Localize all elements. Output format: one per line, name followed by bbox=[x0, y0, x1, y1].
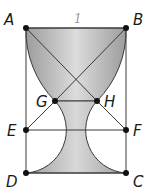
point-g-dot bbox=[52, 98, 58, 104]
point-f-dot bbox=[123, 127, 129, 133]
point-d-dot bbox=[23, 170, 29, 176]
diagram-canvas: 1 ABCDEFGH bbox=[0, 0, 151, 196]
point-d-label: D bbox=[6, 173, 18, 191]
point-e-label: E bbox=[7, 122, 17, 140]
point-h-label: H bbox=[104, 93, 115, 111]
goblet-diagram: 1 ABCDEFGH bbox=[0, 0, 151, 196]
point-c-label: C bbox=[133, 173, 144, 191]
point-h-dot bbox=[94, 98, 100, 104]
point-b-label: B bbox=[133, 11, 143, 29]
point-a-dot bbox=[23, 25, 29, 31]
point-g-label: G bbox=[36, 93, 48, 111]
goblet-bowl bbox=[26, 28, 126, 101]
point-f-label: F bbox=[133, 122, 142, 140]
point-a-label: A bbox=[3, 11, 14, 29]
point-b-dot bbox=[123, 25, 129, 31]
goblet-stem bbox=[26, 101, 126, 173]
point-e-dot bbox=[23, 127, 29, 133]
point-c-dot bbox=[123, 170, 129, 176]
side-length-label: 1 bbox=[74, 12, 82, 26]
